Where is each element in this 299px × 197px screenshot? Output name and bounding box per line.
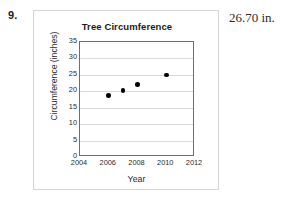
gridline: [80, 58, 193, 59]
gridline: [80, 75, 193, 76]
y-tick-label: 10: [61, 119, 77, 126]
y-axis-ticks: 05101520253035: [61, 41, 77, 156]
y-tick-label: 30: [61, 53, 77, 60]
chart-figure: Tree Circumference Circumference (inches…: [33, 10, 219, 190]
plot-inner: [80, 42, 193, 155]
y-tick-label: 25: [61, 70, 77, 77]
gridline: [80, 141, 193, 142]
problem-number: 9.: [8, 9, 18, 21]
gridline: [80, 108, 193, 109]
chart-title: Tree Circumference: [34, 21, 220, 32]
y-tick-label: 5: [61, 136, 77, 143]
x-axis-label: Year: [79, 174, 194, 184]
data-point: [164, 73, 169, 78]
data-point: [121, 88, 126, 93]
y-axis-label: Circumference (inches): [49, 20, 59, 132]
gridline: [80, 124, 193, 125]
data-point: [135, 82, 140, 87]
gridline: [80, 91, 193, 92]
y-tick-label: 35: [61, 37, 77, 44]
y-tick-label: 15: [61, 103, 77, 110]
answer-value: 26.70 in.: [229, 10, 275, 26]
y-tick-label: 20: [61, 86, 77, 93]
x-axis-ticks: 20042006200820102012: [79, 159, 194, 171]
data-point: [106, 93, 111, 98]
x-tick-label: 2012: [177, 159, 211, 166]
plot-area: [79, 41, 194, 156]
